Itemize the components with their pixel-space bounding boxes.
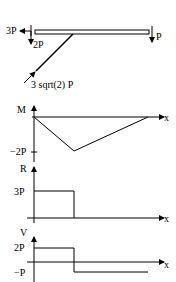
beam [35,30,149,34]
v-axis-label: V [20,227,28,238]
r-tick-label: 3P [14,186,25,197]
load-3p-label: 3P [6,25,17,36]
strut-force-label: 3 sqrt(2) P [31,79,74,91]
r-x-label: x [164,213,169,224]
m-axis-label: M [17,104,26,115]
moment-curve [34,117,148,151]
r-diagram: R x 3P [14,163,169,224]
load-p-label: P [156,31,162,42]
load-2p-label: 2P [33,39,44,50]
beam-free-body: 3P 2P P 3 sqrt(2) P [6,25,162,91]
moment-diagram: M x −2P [10,104,169,162]
shear-curve [34,248,148,272]
beam-diagram-figure: 3P 2P P 3 sqrt(2) P M x −2P R x 3P V x [0,0,176,282]
shear-diagram: V x 2P −P [14,227,169,282]
r-curve [34,191,74,218]
v-x-label: x [164,259,169,270]
v-tick-top-label: 2P [14,242,25,253]
r-axis-label: R [20,163,27,174]
m-x-label: x [164,112,169,123]
v-tick-bottom-label: −P [14,267,26,278]
m-tick-label: −2P [10,146,27,157]
